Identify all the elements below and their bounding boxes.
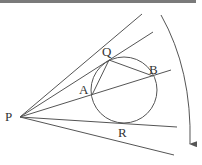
tangent-through-r xyxy=(20,117,177,127)
ray-through-q xyxy=(20,32,153,117)
lower-ray xyxy=(20,117,174,155)
secant-through-a-b xyxy=(20,70,171,117)
chord-qb xyxy=(109,60,153,76)
circle xyxy=(91,57,157,123)
geometry-diagram: P Q A B R xyxy=(0,0,202,165)
label-q: Q xyxy=(102,44,112,59)
label-b: B xyxy=(149,62,158,77)
label-r: R xyxy=(118,125,127,140)
label-p: P xyxy=(5,109,12,124)
rotation-arrow xyxy=(161,15,190,144)
label-a: A xyxy=(79,82,89,97)
